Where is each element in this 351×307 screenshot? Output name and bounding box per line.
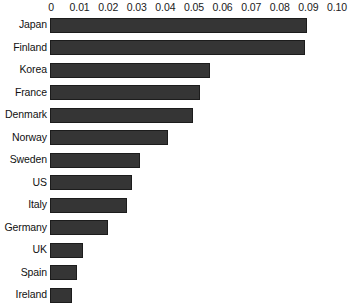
category-label-france: France — [15, 86, 47, 99]
category-label-finland: Finland — [13, 41, 47, 54]
bar-track — [50, 150, 351, 173]
category-label-ireland: Ireland — [16, 288, 47, 301]
bar-finland — [50, 40, 305, 55]
chart-row: Finland — [0, 38, 351, 61]
bar-france — [50, 85, 200, 100]
x-axis-tick-label: 0.03 — [127, 1, 147, 13]
chart-row: Korea — [0, 60, 351, 83]
bar-track — [50, 38, 351, 61]
bar-norway — [50, 130, 168, 145]
bar-track — [50, 285, 351, 307]
category-label-spain: Spain — [21, 266, 47, 279]
category-label-us: US — [33, 176, 47, 189]
x-axis-tick-label: 0.06 — [213, 1, 233, 13]
x-axis-tick-label: 0.02 — [98, 1, 118, 13]
category-label-norway: Norway — [12, 131, 47, 144]
x-axis-tick-label: 0.09 — [298, 1, 318, 13]
bar-track — [50, 173, 351, 196]
category-label-japan: Japan — [19, 18, 47, 31]
bar-track — [50, 263, 351, 286]
chart-row: Italy — [0, 195, 351, 218]
bar-track — [50, 60, 351, 83]
chart-row: Denmark — [0, 105, 351, 128]
bar-track — [50, 218, 351, 241]
chart-row: Norway — [0, 128, 351, 151]
bar-track — [50, 83, 351, 106]
chart-row: UK — [0, 240, 351, 263]
x-axis-tick-label: 0.01 — [70, 1, 90, 13]
bar-ireland — [50, 288, 72, 303]
chart-row: Ireland — [0, 285, 351, 307]
x-axis-top: 00.010.020.030.040.050.060.070.080.090.1… — [0, 0, 351, 15]
bar-sweden — [50, 153, 140, 168]
x-axis-tick-label: 0.08 — [270, 1, 290, 13]
bar-uk — [50, 243, 83, 258]
category-label-denmark: Denmark — [5, 108, 47, 121]
bar-japan — [50, 18, 307, 33]
bar-spain — [50, 265, 77, 280]
x-axis-tick-label: 0.04 — [155, 1, 175, 13]
chart-row: Germany — [0, 218, 351, 241]
plot-area: JapanFinlandKoreaFranceDenmarkNorwaySwed… — [0, 15, 351, 293]
bar-track — [50, 195, 351, 218]
category-label-italy: Italy — [28, 198, 47, 211]
bar-track — [50, 240, 351, 263]
chart-row: US — [0, 173, 351, 196]
category-label-uk: UK — [33, 243, 47, 256]
bar-germany — [50, 220, 108, 235]
chart-row: Japan — [0, 15, 351, 38]
x-axis-tick-label: 0.10 — [327, 1, 347, 13]
category-label-korea: Korea — [19, 63, 47, 76]
bar-track — [50, 105, 351, 128]
bar-korea — [50, 63, 210, 78]
x-axis-tick-label: 0.05 — [184, 1, 204, 13]
x-axis-tick-label: 0 — [48, 1, 54, 13]
bar-track — [50, 128, 351, 151]
bar-denmark — [50, 108, 193, 123]
x-axis-tick-label: 0.07 — [241, 1, 261, 13]
bar-italy — [50, 198, 127, 213]
bar-track — [50, 15, 351, 38]
category-label-germany: Germany — [5, 221, 47, 234]
chart-row: Spain — [0, 263, 351, 286]
chart-row: France — [0, 83, 351, 106]
category-label-sweden: Sweden — [10, 153, 47, 166]
chart-row: Sweden — [0, 150, 351, 173]
bar-us — [50, 175, 132, 190]
